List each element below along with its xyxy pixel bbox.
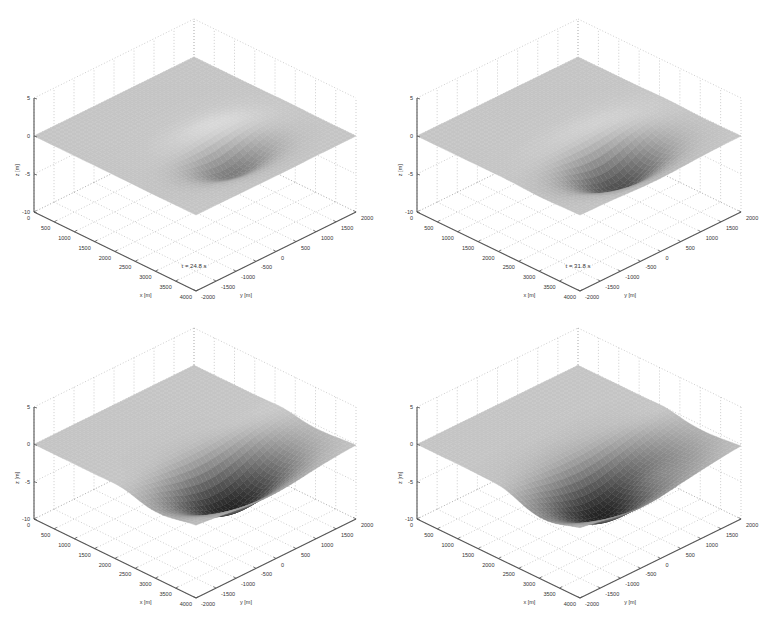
x-tick-label: 3000 (139, 581, 151, 587)
subplot-title: t = 31.8 s (566, 263, 591, 269)
y-tick-label: -1500 (221, 284, 235, 290)
y-tick-label: 0 (666, 562, 669, 568)
x-tick-label: 2500 (503, 571, 515, 577)
x-tick-label: 2000 (99, 562, 111, 568)
y-tick-label: -1000 (625, 274, 639, 280)
y-tick-label: -500 (645, 264, 656, 270)
figure-canvas: -10-50505001000150020002500300035004000-… (0, 0, 766, 623)
y-tick-label: 500 (301, 245, 310, 251)
y-tick-label: -1000 (625, 581, 639, 587)
y-tick-label: 1500 (726, 225, 738, 231)
z-tick-label: -5 (25, 171, 30, 177)
z-tick-label: 5 (27, 95, 30, 101)
y-tick-label: 1500 (341, 225, 353, 231)
y-tick-label: 1000 (706, 235, 718, 241)
z-tick-label: -5 (408, 479, 413, 485)
subplot-t-17-4: -10-50505001000150020002500300035004000-… (397, 0, 758, 300)
x-tick-label: 500 (424, 532, 433, 538)
x-axis-label: x [m] (140, 599, 152, 605)
y-tick-label: 500 (686, 552, 695, 558)
x-tick-label: 0 (410, 522, 413, 528)
y-tick-label: 1000 (321, 542, 333, 548)
y-tick-label: 0 (281, 255, 284, 261)
x-tick-label: 1500 (462, 552, 474, 558)
x-axis-label: x [m] (523, 292, 535, 298)
x-tick-label: 1000 (442, 542, 454, 548)
x-tick-label: 1500 (79, 552, 91, 558)
y-tick-label: 0 (666, 255, 669, 261)
x-tick-label: 0 (410, 215, 413, 221)
x-tick-label: 3500 (543, 591, 555, 597)
subplot-t-24-8: -10-50505001000150020002500300035004000-… (14, 263, 373, 607)
x-axis-label: x [m] (140, 292, 152, 298)
y-tick-label: 500 (301, 552, 310, 558)
y-tick-label: 1500 (341, 532, 353, 538)
x-tick-label: 1500 (462, 245, 474, 251)
y-tick-label: -2000 (585, 294, 599, 300)
x-tick-label: 4000 (564, 601, 576, 607)
x-tick-label: 0 (27, 215, 30, 221)
y-tick-label: -500 (645, 571, 656, 577)
y-tick-label: 0 (281, 562, 284, 568)
x-tick-label: 2500 (119, 571, 131, 577)
x-tick-label: 2500 (119, 264, 131, 270)
x-tick-label: 1500 (79, 245, 91, 251)
x-tick-label: 3500 (160, 284, 172, 290)
z-tick-label: 5 (27, 404, 30, 410)
subplot-t-10-1: -10-50505001000150020002500300035004000-… (14, 0, 373, 300)
z-axis-label: z [m] (397, 164, 403, 176)
surface-plot (417, 57, 741, 215)
y-tick-label: -500 (261, 571, 272, 577)
x-tick-label: 4000 (180, 601, 192, 607)
y-tick-label: 2000 (746, 215, 758, 221)
z-tick-label: -5 (25, 479, 30, 485)
y-tick-label: -2000 (201, 294, 215, 300)
y-tick-label: -1500 (605, 591, 619, 597)
x-tick-label: 1000 (58, 542, 70, 548)
z-tick-label: -5 (408, 171, 413, 177)
x-tick-label: 4000 (564, 294, 576, 300)
x-tick-label: 2000 (482, 255, 494, 261)
y-tick-label: 1500 (726, 532, 738, 538)
x-tick-label: 2000 (99, 255, 111, 261)
y-tick-label: -1500 (605, 284, 619, 290)
y-tick-label: 1000 (706, 542, 718, 548)
x-tick-label: 1000 (442, 235, 454, 241)
surface-plot (34, 57, 356, 215)
z-tick-label: 5 (410, 95, 413, 101)
y-axis-label: y [m] (240, 292, 252, 298)
x-tick-label: 3000 (523, 274, 535, 280)
y-axis-label: y [m] (240, 599, 252, 605)
z-tick-label: 0 (410, 133, 413, 139)
x-tick-label: 2000 (482, 562, 494, 568)
subplot-title: t = 24.8 s (182, 263, 207, 269)
surface-plot (34, 365, 356, 525)
y-tick-label: -1500 (221, 591, 235, 597)
y-axis-label: y [m] (624, 599, 636, 605)
x-tick-label: 3000 (523, 581, 535, 587)
y-tick-label: -2000 (201, 601, 215, 607)
z-axis-label: z [m] (14, 472, 20, 484)
x-tick-label: 500 (41, 532, 50, 538)
y-tick-label: -500 (261, 264, 272, 270)
y-axis-label: y [m] (624, 292, 636, 298)
x-tick-label: 500 (41, 225, 50, 231)
x-tick-label: 0 (27, 522, 30, 528)
y-tick-label: 2000 (361, 522, 373, 528)
z-axis-label: z [m] (397, 472, 403, 484)
x-tick-label: 1000 (58, 235, 70, 241)
x-axis-label: x [m] (523, 599, 535, 605)
y-tick-label: 2000 (361, 215, 373, 221)
x-tick-label: 2500 (503, 264, 515, 270)
y-tick-label: 2000 (746, 522, 758, 528)
x-tick-label: 500 (424, 225, 433, 231)
x-tick-label: 3000 (139, 274, 151, 280)
z-tick-label: 0 (27, 133, 30, 139)
x-tick-label: 3500 (160, 591, 172, 597)
subplot-t-31-8: -10-50505001000150020002500300035004000-… (397, 263, 758, 607)
x-tick-label: 3500 (543, 284, 555, 290)
z-axis-label: z [m] (14, 164, 20, 176)
z-tick-label: 0 (27, 441, 30, 447)
y-tick-label: 500 (686, 245, 695, 251)
y-tick-label: -2000 (585, 601, 599, 607)
